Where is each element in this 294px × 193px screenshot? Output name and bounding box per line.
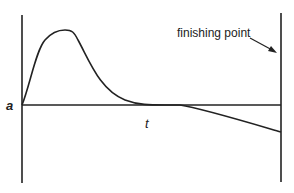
origin-label: a xyxy=(6,98,13,113)
displacement-diagram: a t finishing point xyxy=(0,0,294,193)
finishing-point-label: finishing point xyxy=(177,26,251,40)
time-label: t xyxy=(145,116,150,131)
arrow-head-icon xyxy=(268,46,277,53)
motion-curve xyxy=(22,30,281,132)
